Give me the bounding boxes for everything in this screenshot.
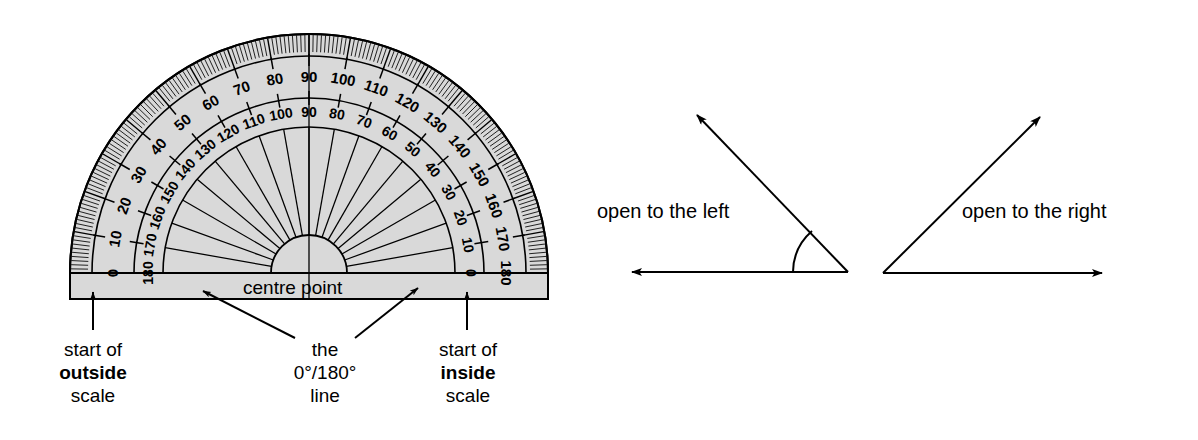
- angle-right-diagonal-ray: [883, 117, 1040, 273]
- angle-open-to-the-left: [632, 115, 848, 272]
- angle-open-to-the-right: [883, 117, 1102, 273]
- outside-scale-number-80: 80: [265, 69, 284, 89]
- angle-left-diagonal-ray: [697, 115, 848, 272]
- callout-inside-line2: inside: [398, 361, 538, 384]
- protractor: 0102030405060708090100110120130140150160…: [70, 34, 548, 299]
- callout-inside-line3: scale: [398, 384, 538, 407]
- figure-canvas: 0102030405060708090100110120130140150160…: [0, 0, 1198, 440]
- callout-outside-line1: start of: [23, 338, 163, 361]
- tick-minor: [530, 265, 547, 266]
- angle-left-arc: [793, 231, 812, 272]
- callout-outside-line3: scale: [23, 384, 163, 407]
- centre-point-label: centre point: [243, 277, 342, 299]
- callout-outside-scale: start of outside scale: [23, 338, 163, 407]
- callout-zeroline-line1: the: [255, 338, 395, 361]
- callout-inside-line1: start of: [398, 338, 538, 361]
- angle-open-right-label: open to the right: [962, 200, 1107, 223]
- callout-zero-one-eighty-line: the 0°/180° line: [255, 338, 395, 407]
- angle-open-left-label: open to the left: [597, 200, 729, 223]
- inside-scale-number-10: 10: [459, 236, 477, 254]
- callout-zeroline-line3: line: [255, 384, 395, 407]
- inside-scale-number-80: 80: [328, 105, 346, 123]
- tick-minor: [317, 35, 318, 52]
- tick-minor: [71, 265, 88, 266]
- outside-scale-number-10: 10: [105, 229, 125, 248]
- callout-outside-line2: outside: [23, 361, 163, 384]
- callout-zeroline-line2: 0°/180°: [255, 361, 395, 384]
- tick-minor: [301, 35, 302, 52]
- callout-inside-scale: start of inside scale: [398, 338, 538, 407]
